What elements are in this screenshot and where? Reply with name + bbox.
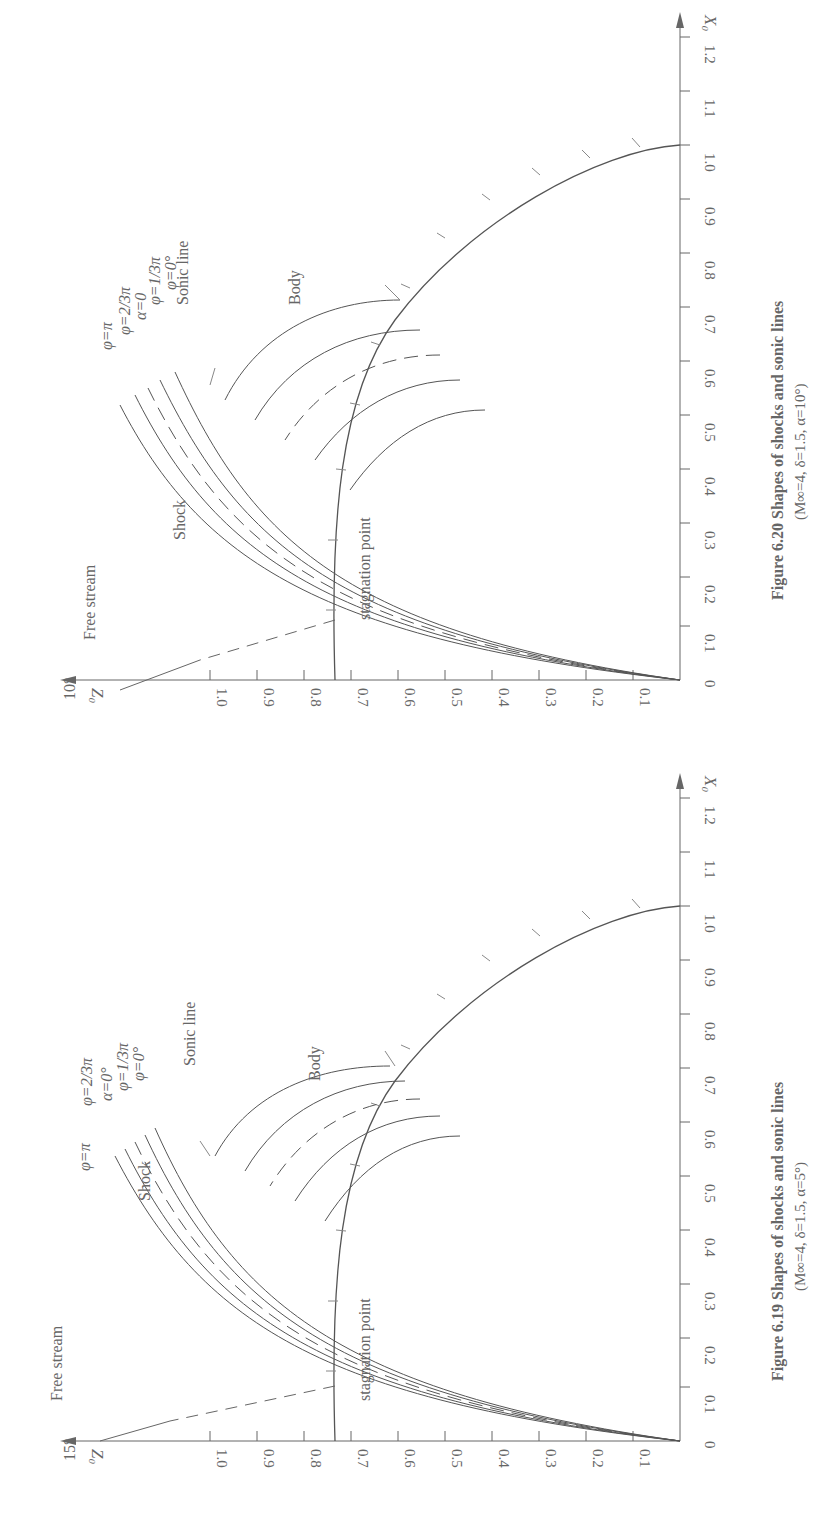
x0-tick-label: 0 — [702, 1441, 718, 1449]
x0-ticks — [680, 37, 690, 626]
x0-tick-label: 0.9 — [702, 968, 718, 987]
free-stream-line — [100, 1421, 170, 1441]
phi-pi-label: φ=π — [98, 321, 116, 350]
figure-6-20: 1.2 1.1 1.0 0.9 0.8 0.7 0.6 0.5 0.4 0.3 … — [0, 0, 829, 761]
z0-tick-label: 0.7 — [355, 688, 371, 707]
shock-curves — [120, 372, 680, 680]
shock-phi-pi — [120, 405, 680, 680]
x0-tick-labels: 1.2 1.1 1.0 0.9 0.8 0.7 0.6 0.5 0.4 0.3 … — [701, 775, 720, 1449]
x0-tick-label: 1.2 — [702, 806, 718, 825]
x0-tick-label: 0.4 — [702, 1238, 718, 1257]
x0-axis-label: X₀ — [701, 14, 720, 31]
z0-tick-label: 0.2 — [590, 688, 606, 707]
free-stream-label: Free stream — [48, 1325, 65, 1401]
z0-axis-label: Z₀ — [88, 688, 107, 703]
annotations: Sonic line Body Shock stagnation point F… — [48, 1002, 374, 1461]
shock-phi-2-3pi — [135, 395, 680, 680]
figure-caption-title: Figure 6.20 Shapes of shocks and sonic l… — [769, 301, 787, 600]
figure-caption-params: (M∞=4, δ=1.5, α=10°) — [792, 383, 809, 520]
x0-tick-label: 0 — [702, 680, 718, 688]
shock-curves — [115, 1128, 680, 1441]
shock-label: Shock — [136, 1161, 153, 1201]
x0-tick-label: 0.2 — [702, 585, 718, 604]
x0-tick-label: 0.3 — [702, 1292, 718, 1311]
figure-6-20-plot: 1.2 1.1 1.0 0.9 0.8 0.7 0.6 0.5 0.4 0.3 … — [0, 0, 829, 761]
x0-axis-arrow-icon — [676, 12, 684, 28]
z0-tick-label: 0.8 — [308, 688, 324, 707]
body-label: Body — [306, 1046, 324, 1081]
annotations: Sonic line Body Shock stagnation point F… — [61, 241, 374, 700]
z0-tick-label: 0.3 — [543, 1449, 559, 1468]
x0-tick-label: 0.7 — [702, 315, 718, 334]
z0-tick-label: 0.9 — [261, 1449, 277, 1468]
body-hatches — [326, 899, 640, 1371]
body-label: Body — [286, 270, 304, 305]
stagnation-point-label: stagnation point — [356, 517, 374, 620]
z0-tick-label: 0.3 — [543, 688, 559, 707]
x0-tick-labels: 1.2 1.1 1.0 0.9 0.8 0.7 0.6 0.5 0.4 0.3 … — [701, 14, 720, 688]
sonic-leader — [210, 368, 215, 385]
phi-0-label: φ=0° — [130, 1046, 148, 1081]
free-stream-angle-label: 15° — [61, 1439, 78, 1461]
free-stream-label: Free stream — [81, 564, 98, 640]
x0-tick-label: 0.9 — [702, 207, 718, 226]
x0-tick-label: 0.6 — [702, 369, 718, 388]
z0-tick-label: 0.7 — [355, 1449, 371, 1468]
x0-ticks — [680, 798, 690, 1387]
figure-caption-title: Figure 6.19 Shapes of shocks and sonic l… — [769, 1082, 787, 1381]
body-hatches — [326, 138, 640, 610]
x0-tick-label: 1.0 — [702, 914, 718, 933]
x0-tick-label: 0.1 — [702, 1395, 718, 1414]
stagnation-point-label: stagnation point — [356, 1298, 374, 1401]
stagnation-line — [170, 1386, 335, 1421]
x0-tick-label: 1.1 — [702, 99, 718, 118]
z0-tick-label: 1.0 — [214, 1449, 230, 1468]
z0-ticks — [210, 1431, 633, 1441]
x0-tick-label: 1.1 — [702, 860, 718, 879]
z0-tick-label: 0.4 — [496, 1449, 512, 1468]
shock-alpha-0 — [148, 388, 680, 680]
phi-2-3pi-label: φ=2/3π — [78, 1057, 96, 1106]
x0-tick-label: 0.3 — [702, 531, 718, 550]
z0-tick-labels: 0.1 0.2 0.3 0.4 0.5 0.6 0.7 0.8 0.9 1.0 … — [88, 1449, 653, 1468]
x0-tick-label: 0.2 — [702, 1346, 718, 1365]
z0-tick-label: 0.6 — [402, 688, 418, 707]
z0-tick-label: 1.0 — [214, 688, 230, 707]
x0-tick-label: 0.5 — [702, 1184, 718, 1203]
x0-tick-label: 0.6 — [702, 1130, 718, 1149]
shock-phi-pi — [115, 1156, 680, 1441]
x0-tick-label: 1.2 — [702, 45, 718, 64]
z0-tick-labels: 0.1 0.2 0.3 0.4 0.5 0.6 0.7 0.8 0.9 1.0 … — [88, 688, 653, 707]
x0-tick-label: 0.8 — [702, 261, 718, 280]
x0-tick-label: 1.0 — [702, 153, 718, 172]
shock-phi-0 — [175, 372, 680, 680]
z0-tick-label: 0.5 — [449, 688, 465, 707]
x0-tick-label: 0.7 — [702, 1076, 718, 1095]
x0-tick-label: 0.5 — [702, 423, 718, 442]
body-leader — [385, 285, 400, 300]
z0-tick-label: 0.1 — [637, 688, 653, 707]
x0-axis-arrow-icon — [676, 773, 684, 789]
z0-tick-label: 0.9 — [261, 688, 277, 707]
body-curve — [334, 145, 680, 680]
sonic-lines — [215, 1066, 460, 1221]
x0-tick-label: 0.1 — [702, 634, 718, 653]
z0-tick-label: 0.8 — [308, 1449, 324, 1468]
z0-tick-label: 0.2 — [590, 1449, 606, 1468]
z0-tick-label: 0.5 — [449, 1449, 465, 1468]
phi-0-label: φ=0° — [162, 255, 180, 290]
free-stream-line — [120, 660, 200, 690]
sonic-line-label: Sonic line — [181, 1002, 198, 1066]
figure-6-19: 1.2 1.1 1.0 0.9 0.8 0.7 0.6 0.5 0.4 0.3 … — [0, 761, 829, 1522]
body-leader — [385, 1051, 395, 1066]
z0-tick-label: 0.6 — [402, 1449, 418, 1468]
free-stream-angle-label: 10° — [61, 678, 78, 700]
x0-tick-label: 0.8 — [702, 1022, 718, 1041]
shock-phi-2-3pi — [125, 1149, 680, 1441]
z0-tick-label: 0.1 — [637, 1449, 653, 1468]
figure-caption-params: (M∞=4, δ=1.5, α=5°) — [792, 1162, 809, 1291]
stagnation-line — [200, 620, 335, 660]
sonic-leader — [200, 1141, 210, 1156]
body-curve — [334, 906, 680, 1441]
sonic-lines — [225, 300, 485, 490]
